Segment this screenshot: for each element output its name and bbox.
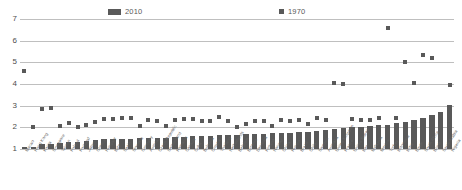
- scatter-point: [226, 119, 230, 123]
- scatter-series-1970: [20, 19, 454, 149]
- y-tick-label: 4: [6, 80, 17, 88]
- legend-label-2010: 2010: [125, 7, 143, 16]
- scatter-point: [306, 122, 310, 126]
- scatter-point: [40, 107, 44, 111]
- legend-label-1970: 1970: [288, 7, 306, 16]
- legend-item-2010: 2010: [108, 7, 143, 16]
- scatter-point: [403, 60, 407, 64]
- scatter-point: [111, 117, 115, 121]
- scatter-point: [394, 116, 398, 120]
- scatter-point: [102, 117, 106, 121]
- scatter-point: [439, 117, 443, 121]
- scatter-point: [324, 118, 328, 122]
- x-axis: MacaoHong KongKoreaSingaporeTaiwanPoland…: [20, 150, 454, 190]
- scatter-point: [120, 116, 124, 120]
- scatter-point: [67, 121, 71, 125]
- scatter-point: [173, 118, 177, 122]
- legend-item-1970: 1970: [279, 7, 306, 16]
- scatter-point: [421, 53, 425, 57]
- scatter-point: [448, 83, 452, 87]
- scatter-point: [58, 124, 62, 128]
- chart-container: 2010 1970 7654321 MacaoHong KongKoreaSin…: [0, 0, 462, 190]
- scatter-point: [297, 118, 301, 122]
- scatter-point: [350, 117, 354, 121]
- scatter-point: [279, 118, 283, 122]
- scatter-point: [217, 115, 221, 119]
- scatter-point: [76, 125, 80, 129]
- y-tick-label: 2: [6, 123, 17, 131]
- scatter-point: [341, 82, 345, 86]
- scatter-point: [22, 69, 26, 73]
- scatter-point: [288, 119, 292, 123]
- scatter-point: [386, 26, 390, 30]
- scatter-point: [332, 81, 336, 85]
- scatter-point: [235, 125, 239, 129]
- scatter-point: [146, 118, 150, 122]
- scatter-point: [31, 125, 35, 129]
- y-tick-label: 6: [6, 37, 17, 45]
- y-tick-label: 3: [6, 102, 17, 110]
- scatter-point: [164, 124, 168, 128]
- scatter-point: [262, 119, 266, 123]
- scatter-point: [359, 118, 363, 122]
- y-tick-label: 7: [6, 15, 17, 23]
- scatter-point: [244, 122, 248, 126]
- scatter-point: [191, 117, 195, 121]
- scatter-point: [155, 119, 159, 123]
- scatter-point: [208, 119, 212, 123]
- scatter-point: [138, 124, 142, 128]
- scatter-point: [182, 117, 186, 121]
- scatter-point: [368, 118, 372, 122]
- scatter-point: [270, 124, 274, 128]
- scatter-point: [49, 106, 53, 110]
- scatter-point: [200, 119, 204, 123]
- y-tick-label: 1: [6, 145, 17, 153]
- scatter-point: [315, 116, 319, 120]
- plot-area: [20, 19, 454, 149]
- scatter-point: [93, 120, 97, 124]
- scatter-point: [430, 56, 434, 60]
- scatter-point: [253, 119, 257, 123]
- scatter-point: [129, 116, 133, 120]
- scatter-point: [377, 116, 381, 120]
- y-tick-label: 5: [6, 58, 17, 66]
- scatter-point: [412, 81, 416, 85]
- legend-square-marker-icon: [279, 9, 284, 14]
- legend-bar-swatch-icon: [108, 9, 121, 15]
- scatter-point: [84, 123, 88, 127]
